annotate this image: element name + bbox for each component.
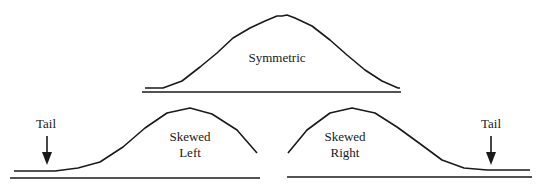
skewed-right-label-line1: Skewed <box>315 129 375 145</box>
tail-arrow-left <box>42 136 52 165</box>
symmetric-label: Symmetric <box>242 50 312 66</box>
diagram-canvas <box>0 0 546 187</box>
tail-label-right: Tail <box>473 116 509 132</box>
skewed-left-label-line1: Skewed <box>160 129 220 145</box>
distribution-shapes-diagram: Symmetric Tail Skewed Left Tail Skewed R… <box>0 0 546 187</box>
skewed-left-label-line2: Left <box>160 145 220 161</box>
tail-label-left: Tail <box>28 116 64 132</box>
tail-arrow-right <box>486 136 496 165</box>
skewed-right-label-line2: Right <box>315 145 375 161</box>
